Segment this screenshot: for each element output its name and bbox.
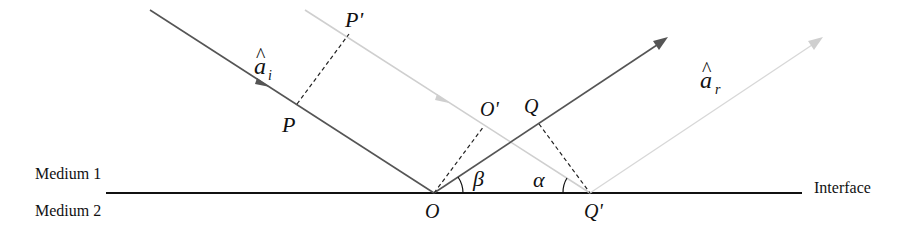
wavefront-P-Pprime [297,34,349,104]
point-O-label: O [425,200,439,222]
incident-ray-light [305,10,590,193]
point-P-label: P [281,112,295,137]
svg-text:^: ^ [256,44,266,66]
point-Q-label: Q [524,95,539,117]
svg-text:i: i [268,68,272,83]
incident-ray-dark [150,10,434,193]
medium-1-label: Medium 1 [35,165,101,182]
reflected-ray-dark [434,43,660,193]
incident-unit-vector-label: a ^ i [254,44,272,83]
alpha-angle-arc [563,178,567,193]
reflected-light-arrowhead-icon [808,37,823,50]
svg-text:^: ^ [702,58,712,80]
alpha-angle-label: α [533,167,545,192]
point-Q-prime-label: Q' [584,200,603,222]
beta-angle-label: β [472,166,484,191]
interface-label: Interface [814,179,871,196]
reflected-unit-vector-label: a ^ r [700,58,721,97]
incident-light-arrowhead-icon [435,94,449,103]
point-O-prime-label: O' [480,98,499,120]
beta-angle-arc [458,177,463,193]
reflected-dark-arrowhead-icon [653,37,668,50]
reflection-diagram: Medium 1 Medium 2 Interface a ^ i a ^ r … [0,0,923,232]
svg-text:r: r [715,82,721,97]
point-P-prime-label: P' [344,7,363,32]
medium-2-label: Medium 2 [35,202,101,219]
